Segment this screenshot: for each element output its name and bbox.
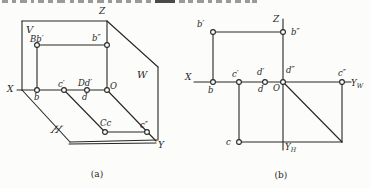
label-axis-x: X	[184, 72, 192, 82]
point-c-double-prime	[340, 80, 345, 85]
point-b	[211, 80, 216, 85]
figure-a: VZXWHYOBb′b″bc′Dd′dCcc″	[6, 6, 165, 150]
line-h-plane-bottom-inner	[70, 140, 157, 142]
line-h-plane-bottom-outer	[69, 143, 156, 144]
point-c-prime	[237, 80, 242, 85]
label-axis-z: Z	[98, 6, 106, 16]
point-c-double-prime	[145, 130, 150, 135]
label-point-d-prime: d′	[257, 67, 264, 77]
point-c	[237, 140, 242, 145]
label-axis-x: X	[6, 84, 14, 94]
label-point-d: d	[82, 92, 88, 102]
label-plane-w: W	[137, 69, 148, 80]
label-point-d-double-prime: d″	[286, 65, 295, 75]
scanned-figure-page: VZXWHYOBb′b″bc′Dd′dCcc″ZXb′b″bc′d′d″dOcc…	[0, 0, 370, 188]
label-axis-z: Z	[272, 14, 280, 24]
descriptive-geometry-diagram: VZXWHYOBb′b″bc′Dd′dCcc″ZXb′b″bc′d′d″dOcc…	[0, 0, 370, 188]
point-C-c	[103, 130, 108, 135]
label-point-c-prime: c′	[58, 79, 65, 89]
label-axis-y: Y	[158, 140, 165, 150]
point-b-prime	[211, 30, 216, 35]
label-point-d: d	[258, 84, 264, 94]
label-point-b-double-prime: b″	[291, 27, 300, 37]
label-point-b-prime: b′	[197, 19, 204, 29]
figure-b: ZXb′b″bc′d′d″dOcc″YWYH	[184, 14, 364, 153]
label-point-C-c: Cc	[100, 118, 112, 128]
label-point-b-double-prime: b″	[92, 33, 101, 43]
label-point-b: b	[34, 92, 39, 102]
label-subscript: H	[290, 146, 297, 153]
label-axis-yw: YW	[351, 78, 364, 89]
label-point-B-b-prime: Bb′	[29, 34, 44, 44]
label-origin-O: O	[273, 83, 280, 93]
figure-b-caption: (b)	[266, 170, 296, 180]
label-point-b: b	[208, 85, 213, 95]
figure-a-caption: (a)	[82, 169, 112, 179]
label-point-c-double-prime: c″	[140, 120, 149, 130]
point-d-double-prime-origin	[281, 80, 286, 85]
point-b-double-prime	[105, 43, 110, 48]
point-b-double-prime	[281, 30, 286, 35]
label-subscript: W	[357, 82, 364, 89]
label-point-c: c	[226, 137, 231, 147]
line-transfer-45-diagonal	[283, 82, 342, 142]
label-axis-yh: YH	[285, 142, 297, 153]
label-point-D-d-prime: Dd′	[77, 78, 92, 88]
line-w-plane-top-diagonal	[107, 21, 158, 67]
label-origin-O: O	[110, 81, 117, 91]
label-point-c-double-prime: c″	[338, 68, 347, 78]
label-point-c-prime: c′	[232, 69, 239, 79]
line-h-plane-left-slant	[22, 90, 70, 142]
point-origin-O	[105, 88, 110, 93]
